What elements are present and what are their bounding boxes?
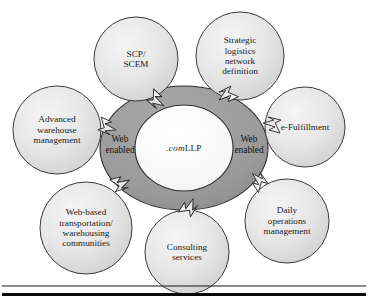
node-label-web-based-transport: Web-based transportation/ warehousing co… [40, 182, 132, 274]
node-line: SCEM [123, 59, 148, 69]
node-line: definition [222, 66, 258, 76]
node-line: warehouse [37, 125, 76, 135]
hub-center-dotcom: .com [166, 143, 184, 153]
node-label-daily-operations: Daily operations management [245, 179, 329, 263]
node-line: management [264, 226, 311, 236]
node-line: communities [62, 238, 109, 248]
node-line: transportation/ [59, 218, 113, 228]
node-label-consulting-services: Consulting services [145, 210, 229, 294]
node-line: services [172, 252, 202, 262]
ring-label-right-line1: Web [241, 134, 258, 144]
node-line: warehousing [63, 228, 110, 238]
ring-label-left-line1: Web [112, 134, 129, 144]
ring-label-right-line2: enabled [234, 145, 263, 155]
figure-container: SCP/ SCEM Strategic logistics network de… [0, 0, 368, 307]
bottom-rule [2, 293, 366, 296]
node-label-e-fulfillment: e-Fulfillment [265, 87, 345, 167]
node-line: logistics [225, 46, 256, 56]
node-line: network [225, 56, 255, 66]
node-line: Web-based [66, 207, 107, 217]
node-label-scp-scem: SCP/ SCEM [94, 17, 178, 101]
node-line: Advanced [38, 114, 75, 124]
node-line: Daily [277, 205, 297, 215]
ring-label-left-line2: enabled [105, 145, 134, 155]
hub-center-label: .comLLP [134, 128, 234, 168]
node-line: e-Fulfillment [281, 122, 329, 132]
node-line: SCP/ [127, 49, 146, 59]
node-line: operations [268, 216, 306, 226]
node-line: Consulting [167, 242, 207, 252]
node-label-advanced-warehouse: Advanced warehouse management [13, 86, 101, 174]
node-line: management [34, 135, 81, 145]
node-line: Strategic [224, 35, 257, 45]
hub-center-llp: LLP [185, 143, 202, 153]
